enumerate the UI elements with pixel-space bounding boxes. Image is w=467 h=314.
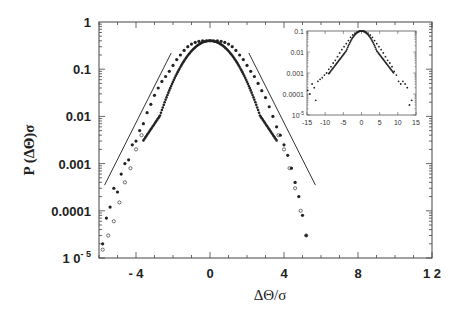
main-data-points [101, 39, 308, 251]
y-tick-label: 1 0- 5 [62, 249, 91, 266]
x-tick-label: - 4 [128, 266, 144, 281]
x-tick-label: 1 2 [423, 266, 441, 281]
reference-slope-lines [105, 53, 316, 185]
inset-y-tick-label: 0.01 [290, 49, 304, 56]
chart: - 40481 210.10.010.0010.00011 0- 5 -15-1… [0, 0, 467, 314]
x-tick-label: 4 [280, 266, 288, 281]
y-tick-label: 0.1 [73, 62, 91, 77]
inset-x-tick-label: 10 [394, 119, 402, 126]
y-tick-label: 1 [84, 15, 91, 30]
inset-plot: -15-10-50510150.10.010.0010.000110-5 [283, 28, 420, 126]
inset-y-tick-label: 0.1 [294, 28, 304, 35]
inset-y-tick-label: 0.001 [286, 70, 304, 77]
inset-y-tick-label: 0.0001 [283, 91, 305, 98]
y-axis-title: P (ΔΘ)σ [21, 124, 38, 176]
inset-x-tick-label: -5 [340, 119, 346, 126]
inset-x-tick-label: -10 [320, 119, 330, 126]
inset-x-tick-label: 15 [412, 119, 420, 126]
inset-x-tick-label: -15 [302, 119, 312, 126]
inset-x-tick-label: 0 [360, 119, 364, 126]
x-axis-title: ΔΘ/σ [254, 287, 287, 303]
x-tick-label: 0 [206, 266, 213, 281]
x-tick-label: 8 [354, 266, 361, 281]
y-tick-label: 0.001 [58, 157, 91, 172]
inset-y-tick-label: 10-5 [292, 110, 304, 119]
y-tick-label: 0.01 [66, 109, 91, 124]
y-tick-label: 0.0001 [51, 204, 91, 219]
inset-x-tick-label: 5 [378, 119, 382, 126]
left-slope-line [105, 53, 172, 185]
